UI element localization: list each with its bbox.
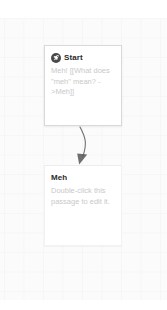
story-map-canvas[interactable]: Start Meh! [[What does "meh" mean? ->Meh… xyxy=(0,18,167,300)
passage-card-meh[interactable]: Meh Double-click this passage to edit it… xyxy=(44,165,122,246)
passage-card-start[interactable]: Start Meh! [[What does "meh" mean? ->Meh… xyxy=(44,45,122,126)
rocket-icon xyxy=(51,53,61,63)
bottom-chrome-band xyxy=(0,300,167,310)
passage-title: Meh xyxy=(51,173,67,183)
arrowhead-icon xyxy=(77,153,87,164)
top-chrome-band xyxy=(0,0,167,18)
link-line-start-to-meh xyxy=(80,127,85,156)
passage-header: Meh xyxy=(51,172,115,183)
passage-excerpt: Double-click this passage to edit it. xyxy=(51,186,115,207)
passage-title: Start xyxy=(64,53,83,63)
passage-excerpt: Meh! [[What does "meh" mean? ->Meh]] xyxy=(51,66,115,98)
passage-header: Start xyxy=(51,52,115,63)
story-map-screen: Start Meh! [[What does "meh" mean? ->Meh… xyxy=(0,0,167,310)
